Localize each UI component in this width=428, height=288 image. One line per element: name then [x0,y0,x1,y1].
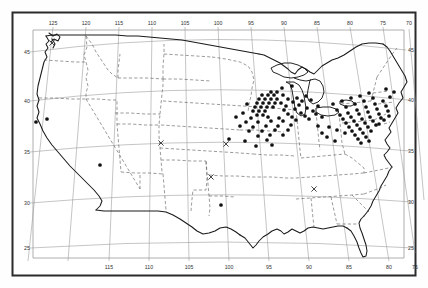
longitude-tick-top: 120 [82,20,91,26]
map-point [335,128,339,132]
map-point [303,114,307,118]
latitude-tick-right: 40 [408,97,414,103]
map-point [300,99,304,103]
map-point [291,100,295,104]
longitude-tick-bottom: 80 [386,264,392,270]
us-distribution-map: 125120115110105100959085807570 115110105… [0,0,428,288]
map-point [269,119,273,123]
longitude-tick-bottom: 75 [412,264,418,270]
map-outer-frame [13,13,416,276]
longitude-tick-bottom: 90 [306,264,312,270]
longitude-tick-top: 80 [347,20,353,26]
map-point [333,139,337,143]
map-point [341,117,345,121]
map-point [363,121,367,125]
map-point [367,139,371,143]
map-point [368,115,372,119]
map-point [256,120,260,124]
map-point [238,124,242,128]
map-point [281,93,285,97]
map-point [247,129,251,133]
map-point [311,109,315,113]
map-point [349,115,353,119]
map-point [263,109,267,113]
map-point [358,127,362,131]
map-point [264,124,268,128]
map-point [347,125,351,129]
map-point [377,122,381,126]
map-point [260,93,264,97]
latitude-tick-left: 35 [24,149,30,155]
map-point [290,115,294,119]
map-point [294,118,298,122]
map-point [353,133,357,137]
map-point [98,163,102,167]
map-point [279,101,283,105]
map-point [266,93,270,97]
map-point [256,134,260,138]
map-point [353,102,357,106]
map-point [387,114,391,118]
map-point [281,133,285,137]
map-point [364,105,368,109]
map-point [316,124,320,128]
map-point [375,107,379,111]
map-point [276,124,280,128]
map-point [295,96,299,100]
map-point [327,125,331,129]
map-point [349,96,353,100]
map-point [269,90,273,94]
latitude-tick-right: 25 [408,245,414,251]
map-point [367,91,371,95]
latitude-tick-left: 40 [24,98,30,104]
map-point [270,143,274,147]
longitude-tick-bottom: 115 [105,264,113,270]
longitude-tick-top: 85 [314,20,320,26]
map-point [286,112,290,116]
longitude-tick-top: 75 [380,20,386,26]
map-point [273,128,277,132]
map-point [253,105,257,109]
map-point [244,120,248,124]
longitude-tick-bottom: 100 [225,264,234,270]
map-point [344,105,348,109]
map-point [245,102,249,106]
map-point [271,105,275,109]
map-point [320,115,324,119]
map-point [352,119,356,123]
map-point [263,97,267,101]
longitude-tick-top: 100 [214,20,223,26]
map-point [392,90,396,94]
map-point [305,106,309,110]
map-point [259,105,263,109]
map-point [257,109,261,113]
map-point [356,137,360,141]
map-point [265,138,269,142]
map-point [219,203,223,207]
latitude-tick-right: 45 [408,47,414,53]
map-point [261,113,265,117]
map-point [255,101,259,105]
map-point [267,101,271,105]
map-point [260,129,264,133]
map-point [384,87,388,91]
map-point [335,108,339,112]
longitude-tick-bottom: 105 [185,264,194,270]
latitude-tick-right: 35 [408,148,414,154]
map-point [268,133,272,137]
map-point [290,84,294,88]
map-point [359,141,363,145]
map-point [266,115,270,119]
map-point [340,99,344,103]
map-point [45,117,49,121]
map-point [371,96,375,100]
map-point [251,125,255,129]
map-point [277,116,281,120]
map-point [386,109,390,113]
map-point [346,111,350,115]
map-point [275,97,279,101]
map-point [361,131,365,135]
map-point [265,105,269,109]
map-point [362,99,366,103]
map-point [284,104,288,108]
